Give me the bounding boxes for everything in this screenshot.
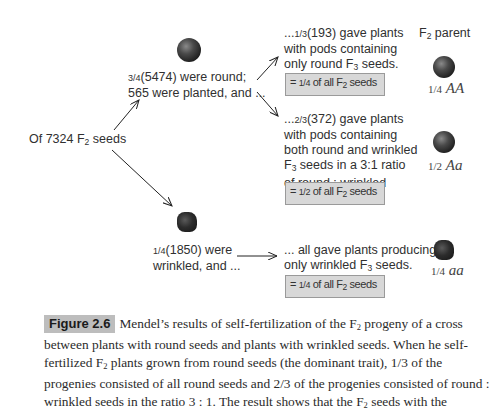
wrinkled-branch-label: 1/4(1850) were wrinkled, and ... — [153, 243, 241, 274]
outcome-3-proportion-box: = 1/4 of all F2 seeds — [285, 275, 385, 298]
outcome-3-text: ... all gave plants producing only wrink… — [284, 243, 436, 276]
arrow-to-round — [114, 100, 139, 130]
round-seed-icon — [177, 38, 201, 62]
wrinkled-seed-icon — [177, 212, 197, 232]
aa-recessive-wrinkled-seed-icon — [434, 240, 454, 260]
round-branch-label: 3/4(5474) were round; 565 were planted, … — [128, 70, 266, 101]
root-label: Of 7324 F2 seeds — [29, 132, 126, 150]
column-header-f2-parent: F2 parent — [419, 26, 470, 44]
outcome-2-proportion-box: = 1/2 of all F2 seeds — [285, 182, 385, 205]
figure-caption: Figure 2.6Mendel’s results of self-ferti… — [44, 315, 494, 412]
outcome-1-proportion-box: = 1/4 of all F2 seeds — [285, 73, 385, 96]
genotype-Aa: 1/2 Aa — [428, 157, 462, 174]
outcome-2-text: ...2/3(372) gave plants with pods contai… — [284, 112, 417, 191]
genotype-aa: 1/4 aa — [431, 262, 464, 279]
genotype-AA: 1/4 AA — [428, 80, 464, 97]
arrow-to-wrinkled — [112, 150, 172, 206]
figure-number-label: Figure 2.6 — [44, 315, 115, 333]
aa-heterozygous-seed-icon — [433, 131, 455, 153]
outcome-1-text: ...1/3(193) gave plants with pods contai… — [284, 26, 404, 75]
aa-dominant-seed-icon — [433, 56, 455, 78]
